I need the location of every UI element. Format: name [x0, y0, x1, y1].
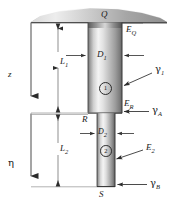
label-modulus-E2: E2	[146, 143, 155, 154]
label-diameter-D2-sub: 2	[104, 131, 107, 138]
shaft-segment-upper	[88, 23, 122, 114]
label-axis-z: z	[8, 70, 12, 79]
label-modulus-E2-sub: 2	[152, 147, 155, 154]
label-diameter-D1-sub: 1	[104, 54, 107, 61]
label-gamma-B-sub: B	[156, 183, 160, 190]
label-modulus-ER-sub: R	[130, 103, 134, 110]
label-point-Q: Q	[101, 10, 108, 19]
stepped-shaft-diagram: Q EQ z η L1 L2 D1 D2 1 2 γ1 ER γA R E2 γ…	[0, 0, 176, 206]
label-point-R: R	[82, 115, 88, 124]
diagram-canvas	[0, 0, 176, 206]
label-diameter-D2: D2	[98, 128, 107, 138]
label-axis-eta: η	[8, 158, 14, 168]
leader-gamma1	[124, 73, 152, 86]
label-modulus-EQ: EQ	[126, 25, 136, 36]
label-gamma-1: γ1	[155, 64, 164, 77]
label-segment-1: 1	[99, 82, 112, 95]
label-gamma-B: γB	[150, 178, 160, 191]
leader-E2	[117, 150, 144, 159]
label-gamma-A: γA	[152, 105, 162, 118]
label-modulus-ER: ER	[124, 99, 133, 110]
ceiling-support	[31, 8, 167, 24]
label-gamma-A-sub: A	[158, 110, 162, 117]
label-segment-2: 2	[100, 145, 112, 157]
label-length-L1: L1	[60, 57, 68, 68]
label-gamma-1-sub: 1	[161, 69, 164, 76]
label-length-L1-sub: 1	[65, 61, 68, 68]
label-point-S: S	[99, 190, 104, 199]
label-modulus-EQ-sub: Q	[132, 29, 137, 36]
label-length-L2-sub: 2	[65, 148, 68, 155]
label-length-L2: L2	[60, 144, 68, 155]
label-diameter-D1: D1	[97, 50, 107, 61]
